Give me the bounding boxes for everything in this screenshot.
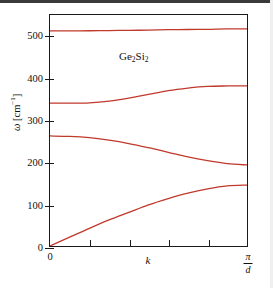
y-tick-label-100: 100: [27, 200, 43, 211]
curve-optical-branch-1: [50, 29, 247, 31]
y-tick-label-500: 500: [27, 31, 43, 42]
scan-edge-top: [0, 0, 273, 3]
x-tick-label-0: 0: [47, 252, 52, 263]
curve-optical-branch-2: [50, 86, 247, 103]
y-tick-label-0: 0: [38, 243, 43, 254]
curve-acoustic-branch: [50, 185, 247, 246]
curve-optical-branch-3: [50, 136, 247, 165]
y-axis-unit-exponent: −1: [9, 97, 17, 104]
plot-area: 0 100 200 300 400 500 0 Ge2Si2: [49, 14, 248, 247]
y-tick-label-300: 300: [27, 116, 43, 127]
x-axis-title: k: [146, 254, 151, 266]
x-axis-max-numerator: π: [243, 252, 252, 263]
y-axis-unit-open: [cm: [11, 105, 22, 124]
phonon-dispersion-figure: ω [cm−1] k π d 0 100 200 300 400 500: [0, 0, 273, 288]
y-axis-symbol: ω: [11, 124, 22, 131]
scan-edge-right: [270, 0, 273, 288]
y-tick-label-400: 400: [27, 73, 43, 84]
y-tick-label-200: 200: [27, 158, 43, 169]
dispersion-curves: [50, 15, 247, 246]
y-axis-title: ω [cm−1]: [9, 94, 22, 131]
x-axis-max-label: π d: [243, 252, 252, 275]
y-axis-unit-close: ]: [11, 94, 22, 98]
x-axis-max-denominator: d: [243, 265, 252, 276]
y-tick-inner-0: [50, 248, 54, 249]
